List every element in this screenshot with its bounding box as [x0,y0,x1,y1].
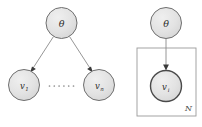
node-theta-left[interactable]: θ [46,8,77,39]
node-theta-left-label: θ [59,18,65,29]
ellipsis-dot [53,85,55,87]
ellipsis-dot [63,85,65,87]
edge-theta-to-vi [163,39,169,71]
left-panel-group: θ v 1 v n [9,8,115,101]
plate-count-label: N [184,104,193,113]
edge-theta-to-vn [70,37,93,73]
edge-theta-to-vi-arrowhead [163,65,169,71]
node-vi[interactable]: v i [151,71,182,102]
ellipsis-dot [73,85,75,87]
node-vi-label: v [162,82,167,92]
edge-theta-to-vn-line [70,37,92,71]
node-vi-subscript: i [168,87,170,93]
edge-theta-to-v1 [30,37,53,73]
node-theta-right-label: θ [163,18,169,29]
node-v1-subscript: 1 [25,86,29,92]
ellipsis-dot [49,85,51,87]
graphical-model-figure: θ v 1 v n [0,0,202,127]
node-v1-label: v [20,81,25,91]
figure-canvas: θ v 1 v n [0,0,202,127]
node-vn-subscript: n [100,86,104,92]
right-panel-group: θ v i N [137,8,196,117]
ellipsis-between-nodes [49,85,75,87]
edge-theta-to-v1-line [32,37,54,71]
ellipsis-dot [58,85,60,87]
node-vn[interactable]: v n [84,70,115,101]
node-theta-right[interactable]: θ [151,8,182,39]
ellipsis-dot [68,85,70,87]
node-v1[interactable]: v 1 [9,70,40,101]
node-vn-label: v [95,81,100,91]
